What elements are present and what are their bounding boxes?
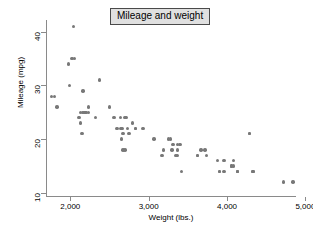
data-point xyxy=(216,159,219,162)
data-point xyxy=(218,170,221,173)
data-point xyxy=(87,111,90,114)
x-tick-label-4000: 4,000 xyxy=(217,202,237,211)
data-point xyxy=(81,89,84,92)
x-tick-label-3000: 3,000 xyxy=(139,202,159,211)
y-tick-label-text: 10 xyxy=(34,193,42,202)
data-point xyxy=(70,57,73,60)
data-point xyxy=(236,170,239,173)
y-tick-label-30: 30 xyxy=(24,81,38,89)
data-point xyxy=(79,121,82,124)
data-point xyxy=(120,137,123,140)
data-point xyxy=(68,84,71,87)
data-point xyxy=(121,132,124,135)
data-point xyxy=(55,105,58,108)
data-point xyxy=(134,127,137,130)
data-point xyxy=(77,116,80,119)
chart-figure: Mileage and weight 10203040 2,0003,0004,… xyxy=(0,0,313,235)
data-point xyxy=(98,78,101,81)
data-point xyxy=(126,127,129,130)
data-point xyxy=(141,127,144,130)
data-point xyxy=(115,127,118,130)
data-point xyxy=(203,148,206,151)
data-point xyxy=(94,116,97,119)
y-tick-label-text: 20 xyxy=(34,139,42,148)
data-point xyxy=(205,154,208,157)
data-point xyxy=(120,127,123,130)
y-tick-label-40: 40 xyxy=(24,28,38,36)
x-axis-title: Weight (lbs.) xyxy=(46,213,296,222)
data-point xyxy=(72,25,75,28)
data-point xyxy=(67,62,70,65)
data-point xyxy=(171,143,174,146)
x-tick-label-5000: 5,000 xyxy=(295,202,313,211)
data-point xyxy=(169,137,172,140)
data-point xyxy=(119,116,122,119)
x-tick-5000 xyxy=(305,197,306,201)
data-point xyxy=(127,132,130,135)
data-point xyxy=(222,159,225,162)
x-tick-3000 xyxy=(149,197,150,201)
x-tick-4000 xyxy=(227,197,228,201)
data-point xyxy=(248,132,251,135)
data-point xyxy=(123,148,126,151)
data-point xyxy=(108,105,111,108)
x-tick-label-2000: 2,000 xyxy=(60,202,80,211)
data-point xyxy=(112,116,115,119)
data-point xyxy=(162,148,165,151)
data-point xyxy=(80,132,83,135)
y-tick-label-text: 30 xyxy=(34,85,42,94)
data-point xyxy=(251,170,254,173)
data-point xyxy=(282,180,285,183)
plot-area xyxy=(46,20,296,195)
data-point xyxy=(176,154,179,157)
x-tick-2000 xyxy=(70,197,71,201)
data-point xyxy=(170,148,173,151)
data-point xyxy=(50,95,53,98)
data-point xyxy=(291,180,294,183)
data-point xyxy=(199,148,202,151)
data-point xyxy=(152,137,155,140)
y-axis-title: Mileage (mpg) xyxy=(16,57,25,108)
data-point xyxy=(180,170,183,173)
y-tick-label-text: 40 xyxy=(34,32,42,41)
y-tick-label-10: 10 xyxy=(24,189,38,197)
y-tick-label-20: 20 xyxy=(24,135,38,143)
data-point xyxy=(176,148,179,151)
x-axis-line xyxy=(46,196,296,197)
data-point xyxy=(87,105,90,108)
data-point xyxy=(232,159,235,162)
data-point xyxy=(160,154,163,157)
data-point xyxy=(131,121,134,124)
data-point xyxy=(222,170,225,173)
data-point xyxy=(196,154,199,157)
data-point xyxy=(53,95,56,98)
